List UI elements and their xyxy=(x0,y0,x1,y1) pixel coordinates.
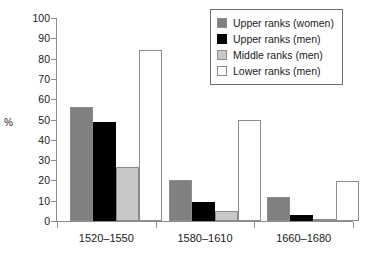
y-axis-tick-labels: 0102030405060708090100 xyxy=(18,0,50,271)
bar xyxy=(290,215,313,221)
y-axis-tick-label: 100 xyxy=(18,13,50,24)
legend-swatch-icon xyxy=(217,18,227,28)
y-axis-tick-mark xyxy=(51,59,56,60)
bar-group xyxy=(57,18,156,221)
legend-label: Middle ranks (men) xyxy=(233,50,323,61)
y-axis-tick-label: 20 xyxy=(18,175,50,186)
x-axis-tick-mark xyxy=(156,222,157,228)
y-axis-tick-mark xyxy=(51,79,56,80)
bar xyxy=(192,202,215,221)
x-axis-tick-label: 1520–1550 xyxy=(79,232,134,244)
bar xyxy=(116,167,139,221)
bar xyxy=(169,180,192,221)
x-axis-line xyxy=(56,221,353,222)
legend-swatch-icon xyxy=(217,50,227,60)
legend-item: Lower ranks (men) xyxy=(217,63,334,79)
y-axis-tick-mark xyxy=(51,120,56,121)
bar xyxy=(313,219,336,221)
y-axis-tick-mark xyxy=(51,18,56,19)
y-axis-tick-mark xyxy=(51,140,56,141)
y-axis-tick-mark xyxy=(51,201,56,202)
legend-swatch-icon xyxy=(217,66,227,76)
y-axis-tick-mark xyxy=(51,180,56,181)
y-axis-tick-mark xyxy=(51,99,56,100)
y-axis-tick-label: 40 xyxy=(18,135,50,146)
legend-swatch-icon xyxy=(217,34,227,44)
y-axis-tick-label: 10 xyxy=(18,195,50,206)
bar xyxy=(267,197,290,221)
legend-item: Upper ranks (men) xyxy=(217,31,334,47)
legend-label: Upper ranks (men) xyxy=(233,34,321,45)
legend-label: Lower ranks (men) xyxy=(233,66,321,77)
y-axis-tick-label: 60 xyxy=(18,94,50,105)
y-axis-tick-label: 80 xyxy=(18,53,50,64)
y-axis-tick-mark xyxy=(51,38,56,39)
x-axis-tick-mark xyxy=(353,222,354,228)
y-axis-tick-mark xyxy=(51,221,56,222)
x-axis-tick-mark xyxy=(57,222,58,228)
chart-legend: Upper ranks (women)Upper ranks (men)Midd… xyxy=(210,9,343,85)
bar xyxy=(336,181,359,221)
legend-item: Middle ranks (men) xyxy=(217,47,334,63)
y-axis-tick-label: 90 xyxy=(18,33,50,44)
y-axis-tick-label: 50 xyxy=(18,114,50,125)
y-axis-title: % xyxy=(4,117,13,128)
y-axis-tick-label: 70 xyxy=(18,74,50,85)
x-axis-tick-mark xyxy=(254,222,255,228)
bar xyxy=(215,211,238,221)
y-axis-tick-label: 30 xyxy=(18,155,50,166)
x-axis-tick-label: 1580–1610 xyxy=(177,232,232,244)
bar xyxy=(93,122,116,221)
bar xyxy=(70,107,93,221)
y-axis-tick-mark xyxy=(51,160,56,161)
x-axis-tick-label: 1660–1680 xyxy=(276,232,331,244)
legend-item: Upper ranks (women) xyxy=(217,15,334,31)
bar-chart: % 0102030405060708090100 1520–15501580–1… xyxy=(0,0,388,271)
y-axis-tick-label: 0 xyxy=(18,216,50,227)
legend-label: Upper ranks (women) xyxy=(233,18,334,29)
